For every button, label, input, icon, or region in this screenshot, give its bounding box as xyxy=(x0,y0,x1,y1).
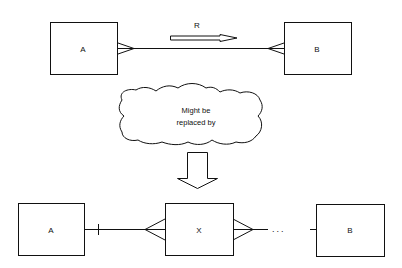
er-diagram: A B R Might be replaced by A X B ... xyxy=(0,0,402,268)
cloud-text-line2: replaced by xyxy=(177,118,216,127)
down-arrow-icon xyxy=(178,153,218,189)
bottom-entity-a-label: A xyxy=(48,226,54,235)
top-entity-a-label: A xyxy=(80,45,86,54)
direction-arrow-icon xyxy=(171,35,238,42)
bottom-entity-b-label: B xyxy=(347,226,352,235)
crows-foot-icon xyxy=(145,219,165,240)
relationship-label: R xyxy=(194,21,200,30)
crows-foot-icon xyxy=(118,43,134,54)
ellipsis: ... xyxy=(272,224,286,234)
bottom-entity-x-label: X xyxy=(196,226,202,235)
top-entity-b-label: B xyxy=(314,45,319,54)
cloud-text-line1: Might be xyxy=(182,106,211,115)
crows-foot-icon xyxy=(268,43,284,54)
